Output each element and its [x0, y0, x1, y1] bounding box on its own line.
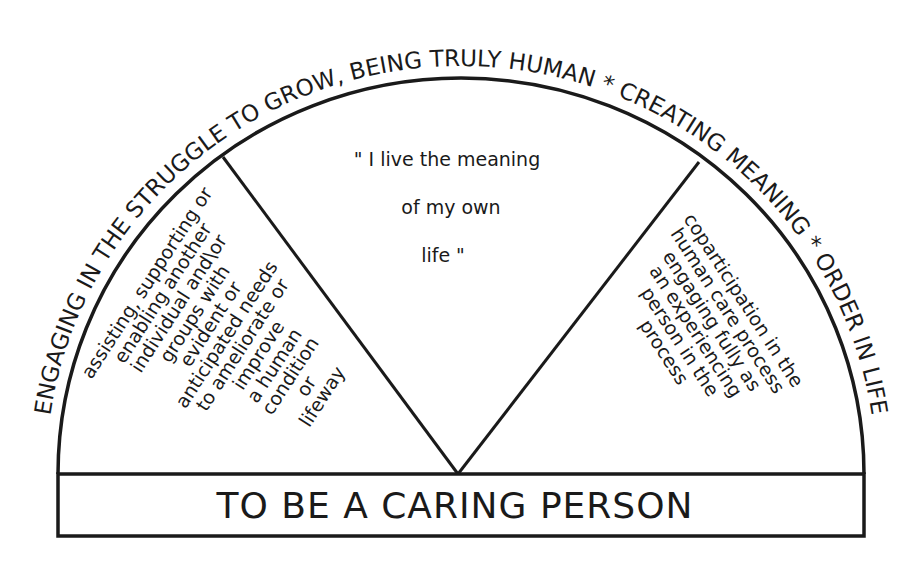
caring-person-diagram: ENGAGING IN THE STRUGGLE TO GROW, BEING … [0, 0, 922, 567]
right-wedge-text: coparticipation in the human care proces… [600, 209, 809, 443]
center-quote: " I live the meaning of my own life " [354, 148, 540, 266]
center-quote-line: " I live the meaning [354, 148, 540, 170]
center-quote-line: life " [421, 244, 465, 266]
base-label: TO BE A CARING PERSON [216, 485, 694, 526]
center-quote-line: of my own [401, 196, 500, 218]
